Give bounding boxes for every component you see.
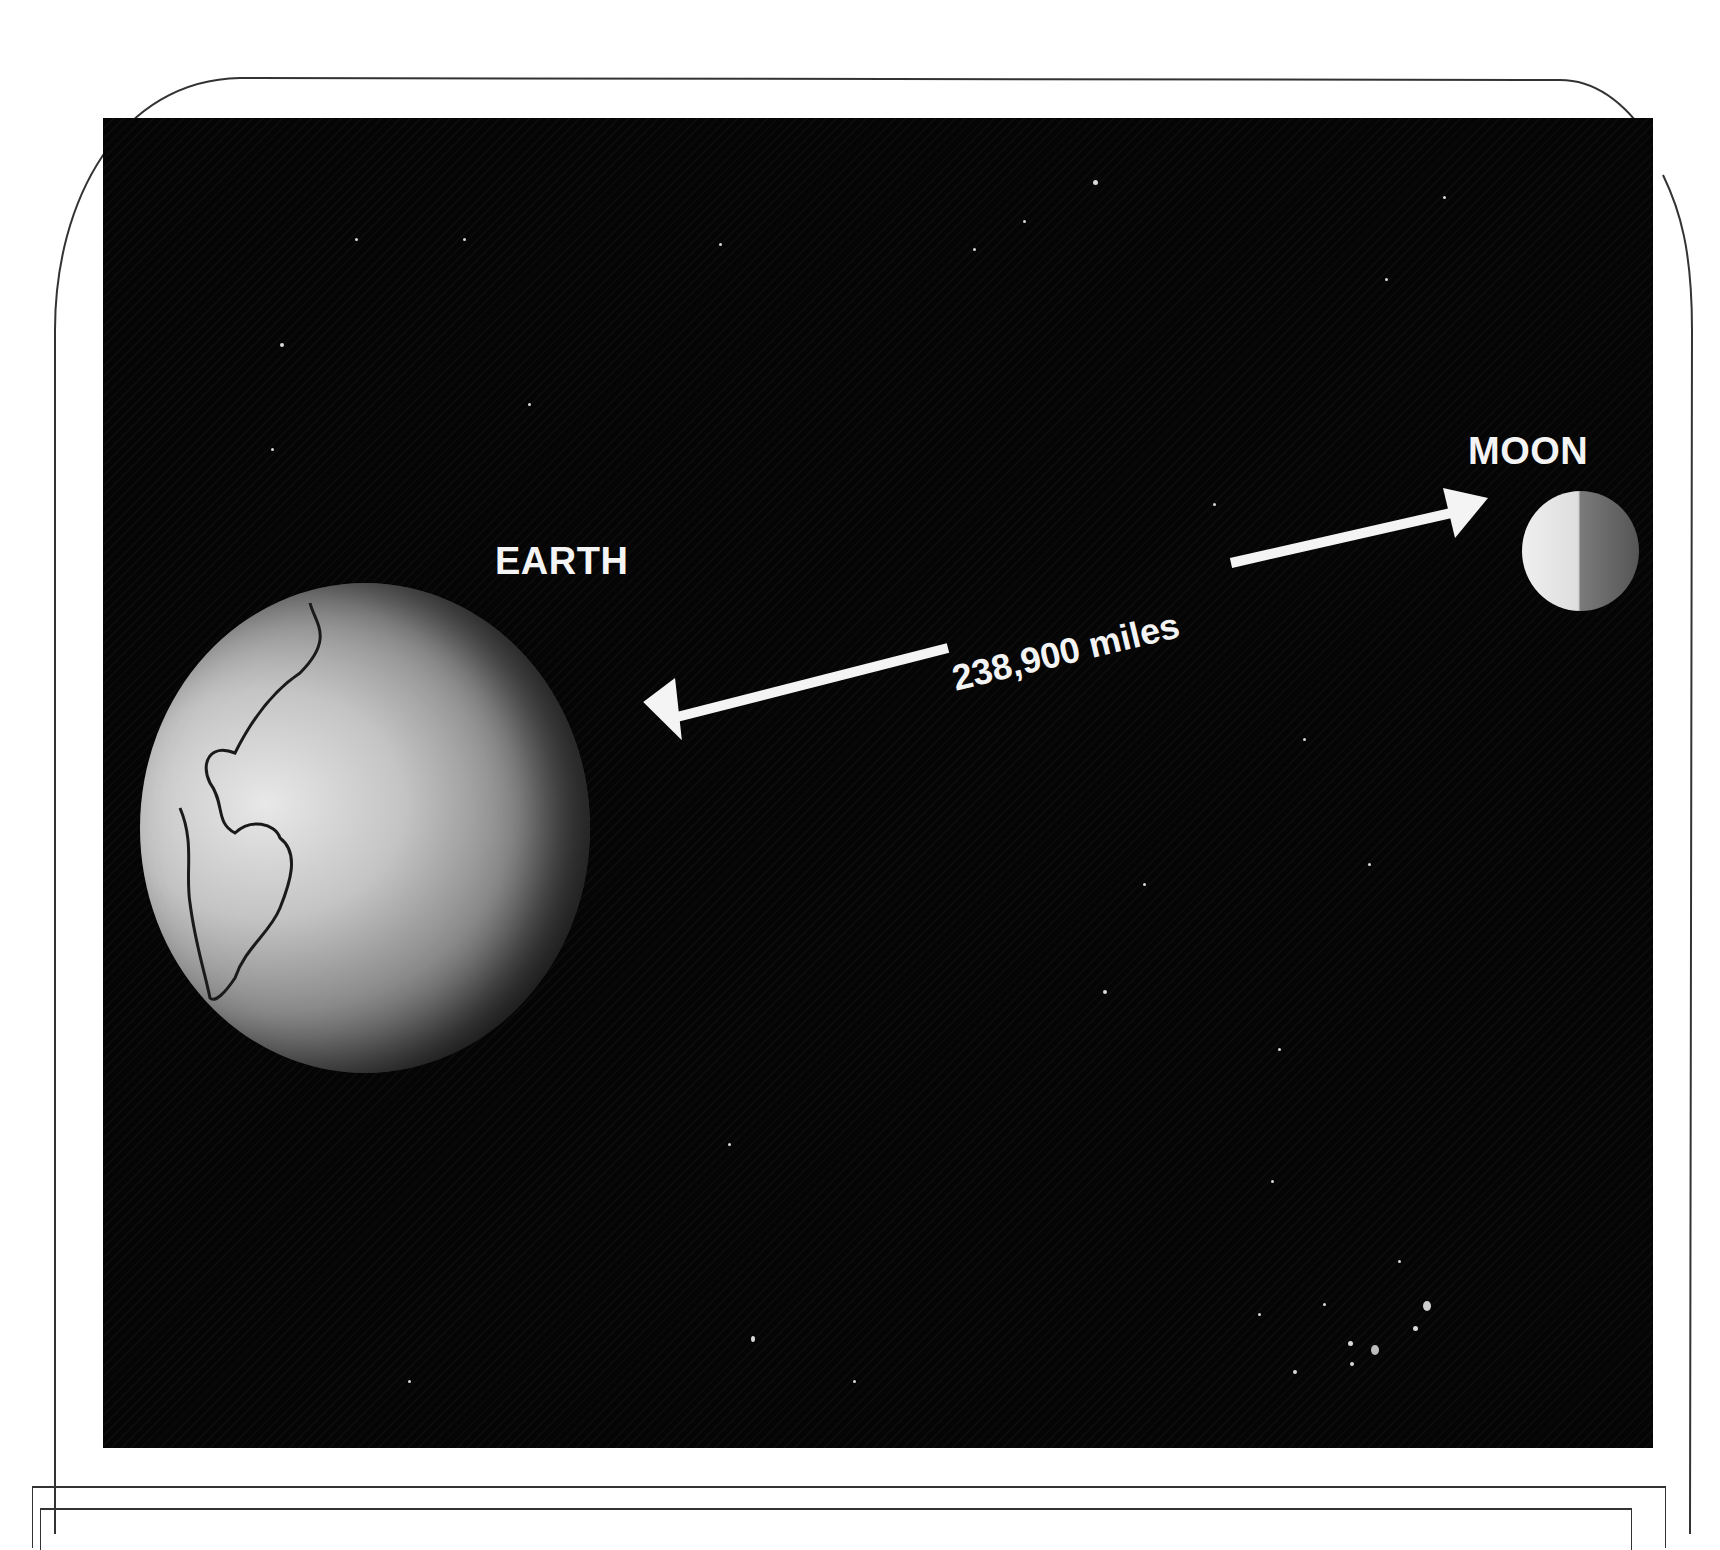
double-headed-arrow-icon (103, 118, 1653, 1448)
space-illustration: EARTH MOON 238,900 miles (103, 118, 1653, 1448)
caption-frame-inner (40, 1508, 1632, 1550)
